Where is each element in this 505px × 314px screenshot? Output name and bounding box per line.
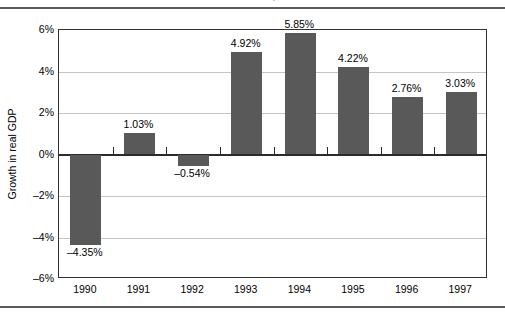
x-axis-tick-label: 1994 — [288, 283, 311, 295]
x-axis-tick-label: 1991 — [127, 283, 150, 295]
y-axis-tick-labels: 6%4%2%0%–2%–4%–6% — [22, 29, 54, 278]
x-axis-tick-label: 1992 — [180, 283, 203, 295]
y-axis-tick-label: 2% — [39, 106, 54, 118]
y-axis-tick-label: –2% — [33, 189, 54, 201]
bar-value-label: 4.22% — [338, 52, 368, 64]
plot-area — [58, 29, 487, 278]
bar[interactable] — [70, 155, 101, 245]
x-axis-tick-label: 1996 — [395, 283, 418, 295]
bar-value-label: 5.85% — [284, 18, 314, 30]
bar-chart: Growth in real GDP 6%4%2%0%–2%–4%–6% 199… — [0, 0, 505, 314]
bar[interactable] — [231, 52, 262, 154]
y-axis-tick-label: –6% — [33, 272, 54, 284]
bar-value-label: 4.92% — [231, 37, 261, 49]
x-axis-tick-labels: 19901991199219931994199519961997 — [58, 283, 487, 299]
x-axis-tick-label: 1997 — [449, 283, 472, 295]
bar-value-label: 2.76% — [392, 82, 422, 94]
x-axis-tick-label: 1993 — [234, 283, 257, 295]
y-axis-tick-label: 4% — [39, 65, 54, 77]
y-axis-tick-label: –4% — [33, 231, 54, 243]
bar[interactable] — [338, 67, 369, 155]
bar[interactable] — [124, 133, 155, 154]
y-axis-tick-label: 0% — [39, 148, 54, 160]
bar-value-label: –0.54% — [174, 167, 210, 179]
bars-layer — [59, 30, 486, 277]
y-axis-tick-label: 6% — [39, 23, 54, 35]
x-axis-tick-label: 1995 — [341, 283, 364, 295]
y-axis-title: Growth in real GDP — [4, 29, 20, 278]
bar-value-label: –4.35% — [67, 246, 103, 258]
bar-value-label: 3.03% — [445, 77, 475, 89]
x-axis-tick-label: 1990 — [73, 283, 96, 295]
bar[interactable] — [178, 155, 209, 166]
bar[interactable] — [285, 33, 316, 154]
bar[interactable] — [392, 97, 423, 154]
y-axis-title-label: Growth in real GDP — [6, 108, 18, 199]
bottom-divider-rule — [0, 306, 505, 308]
bar[interactable] — [446, 92, 477, 155]
bar-value-label: 1.03% — [124, 118, 154, 130]
